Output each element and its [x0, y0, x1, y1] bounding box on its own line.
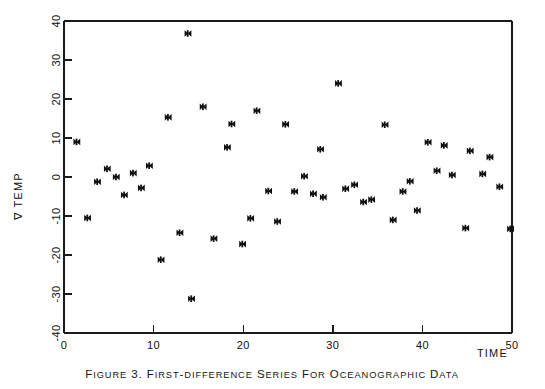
data-point-marker: [335, 80, 342, 87]
data-point-marker: [441, 142, 448, 149]
data-point-marker: [265, 188, 272, 195]
data-point-marker: [462, 225, 469, 232]
data-point-marker: [360, 199, 367, 206]
data-point-marker: [176, 229, 183, 236]
data-point-marker: [211, 235, 218, 242]
data-point-marker: [467, 148, 474, 155]
data-point-marker: [282, 121, 289, 128]
data-point-marker: [188, 295, 195, 302]
data-point-marker: [185, 30, 192, 37]
y-tick-label: -30: [50, 285, 62, 302]
x-tick-label: 20: [237, 339, 250, 351]
data-point-marker: [224, 144, 231, 151]
data-point-marker: [104, 166, 111, 173]
y-axis-title: ∇ TEMP: [12, 172, 24, 221]
data-point-marker: [130, 170, 137, 177]
x-axis-ticks: 01020304050: [61, 325, 519, 351]
figure-caption: FIGURE 3. FIRST-DIFFERENCE SERIES FOR OC…: [85, 368, 459, 380]
plot-frame: [64, 21, 512, 333]
data-point-marker: [414, 207, 421, 214]
x-tick-label: 40: [416, 339, 429, 351]
data-point-marker: [138, 185, 145, 192]
data-point-marker: [146, 162, 153, 169]
x-tick-label: 0: [61, 339, 68, 351]
data-point-marker: [310, 190, 317, 197]
data-point-marker: [94, 178, 101, 185]
y-tick-label: 0: [50, 174, 62, 181]
x-tick-label: 10: [147, 339, 160, 351]
data-point-marker: [479, 171, 486, 178]
data-point-marker: [113, 174, 120, 181]
data-point-marker: [274, 218, 281, 225]
data-point-marker: [73, 139, 80, 146]
data-point-marker: [158, 256, 165, 263]
data-point-marker: [382, 121, 389, 128]
x-axis-title: TIME: [477, 347, 508, 359]
data-point-marker: [200, 104, 207, 111]
data-point-marker: [320, 194, 327, 201]
y-tick-label: -20: [50, 246, 62, 263]
data-point-marker: [247, 215, 254, 222]
data-point-marker: [400, 188, 407, 195]
y-tick-label: 30: [50, 53, 62, 66]
data-point-marker: [317, 146, 324, 153]
data-point-marker: [496, 183, 503, 190]
data-point-marker: [368, 196, 375, 203]
y-tick-label: 20: [50, 92, 62, 105]
data-point-marker: [239, 241, 246, 248]
x-tick-label: 30: [326, 339, 339, 351]
data-point-marker: [84, 215, 91, 222]
y-tick-label: -10: [50, 207, 62, 224]
figure-container: 403020100-10-20-30-40 01020304050 ∇ TEMP…: [0, 0, 545, 389]
data-point-layer: [73, 30, 513, 302]
y-tick-label: 40: [50, 14, 62, 27]
data-point-marker: [342, 185, 349, 192]
data-point-marker: [390, 217, 397, 224]
data-point-marker: [121, 192, 128, 199]
data-point-marker: [425, 139, 432, 146]
data-point-marker: [165, 114, 172, 121]
data-point-marker: [351, 182, 358, 189]
data-point-marker: [407, 178, 414, 185]
y-axis-ticks: 403020100-10-20-30-40: [50, 14, 72, 341]
data-point-marker: [228, 121, 235, 128]
data-point-marker: [301, 173, 308, 180]
data-point-marker: [434, 167, 441, 174]
data-point-marker: [507, 226, 514, 233]
data-point-marker: [254, 107, 261, 114]
data-point-marker: [487, 154, 494, 161]
data-point-marker: [291, 188, 298, 195]
y-tick-label: 10: [50, 131, 62, 144]
data-point-marker: [449, 172, 456, 179]
scatter-plot: 403020100-10-20-30-40 01020304050 ∇ TEMP…: [0, 0, 545, 389]
